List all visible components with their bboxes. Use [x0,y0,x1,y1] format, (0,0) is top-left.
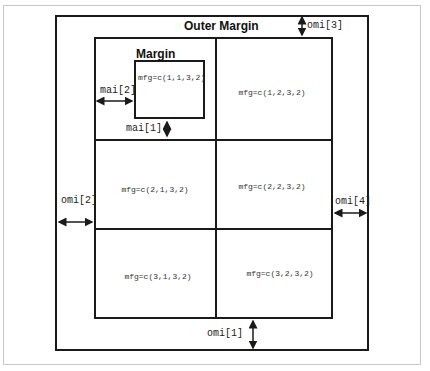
cell-label-1-1: mfg=c(1,1,3,2) [138,73,205,82]
cell-label-1-2: mfg=c(1,2,3,2) [238,88,305,97]
grid-row-divider-1 [94,139,333,141]
margin-label: Margin [136,47,175,61]
cell-label-2-2: mfg=c(2,2,3,2) [238,182,305,191]
grid-column-divider [215,37,217,319]
mai1-label: mai[1] [126,123,162,134]
outer-margin-title: Outer Margin [184,19,259,33]
omi1-label: omi[1] [207,328,243,339]
cell-label-2-1: mfg=c(2,1,3,2) [121,185,188,194]
grid-row-divider-2 [94,228,333,230]
omi3-label: omi[3] [307,20,343,31]
omi2-label: omi[2] [61,195,97,206]
plot-region-box [134,60,205,119]
cell-label-3-1: mfg=c(3,1,3,2) [124,272,191,281]
cell-label-3-2: mfg=c(3,2,3,2) [246,269,313,278]
mai2-label: mai[2] [100,85,136,96]
omi4-label: omi[4] [335,196,371,207]
